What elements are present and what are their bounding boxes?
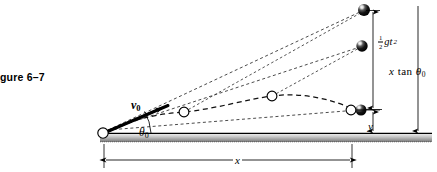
theta-subscript: 0 [145,131,149,140]
xtan-x-symbol: x [389,65,394,77]
one-half-fraction: 1 2 [378,35,383,50]
marker-t1 [179,107,189,117]
free-flight-spheres [356,4,371,116]
dimension-x-range [104,144,352,168]
fraction-denominator: 2 [378,43,383,50]
label-x-tan-theta: x tan θ0 [389,66,426,79]
label-initial-velocity: v0 [131,99,141,113]
dimension-half-g-t-squared [366,11,382,110]
ray-to-sphere-1 [108,11,362,130]
marker-launch [98,128,108,138]
figure-canvas [0,0,437,172]
label-y-height: y [368,121,373,132]
figure-projectile-motion: gure 6–7 v0 θ0 1 2 gt2 x tan θ0 y x [0,0,437,172]
gt-symbol: gt [384,37,392,48]
sphere-2 [356,40,367,51]
figure-caption: gure 6–7 [0,72,45,83]
gt-exponent: 2 [393,39,397,46]
fraction-numerator: 1 [378,35,383,42]
marker-t2 [267,91,277,101]
label-half-g-t-squared: 1 2 gt2 [378,35,397,50]
label-x-range: x [233,155,242,166]
v0-subscript: 0 [136,103,140,113]
sphere-1 [358,4,370,16]
no-gravity-straight-line-rays [108,11,362,130]
tan-function: tan [398,65,413,77]
ground-surface [100,133,432,142]
xtan-theta-subscript: 0 [422,70,426,79]
marker-t3 [346,105,356,115]
label-launch-angle: θ0 [139,127,149,140]
